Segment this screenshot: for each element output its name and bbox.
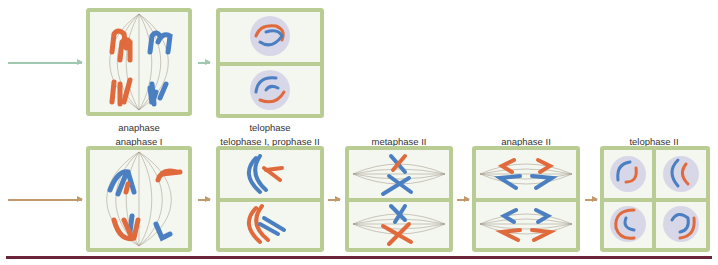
cell-telophase-bottom	[216, 62, 324, 118]
spindle-metaphase-ii-top	[349, 150, 449, 198]
cell-anaphase-i	[86, 146, 192, 252]
chromosomes-telophase-i-top	[220, 150, 320, 198]
label-telophase: telophase	[216, 122, 324, 133]
cell-telophase-i-bottom	[216, 198, 324, 252]
nucleus-telophase-top	[220, 12, 320, 62]
cell-anaphase	[86, 8, 192, 116]
nucleus-telophase-ii-br	[656, 202, 706, 248]
chromosomes-telophase-i-bottom	[220, 202, 320, 248]
nucleus-telophase-ii-bl	[604, 202, 652, 248]
arrow-1	[198, 199, 210, 201]
cell-metaphase-ii-bottom	[345, 198, 453, 252]
arrow-4	[585, 199, 597, 201]
arrow-3	[457, 199, 469, 201]
cell-telophase-ii-tr	[652, 146, 710, 202]
nucleus-telophase-ii-tl	[604, 150, 652, 198]
spindle-chromosomes-anaphase	[90, 12, 188, 112]
cell-telophase-i-top	[216, 146, 324, 202]
cell-anaphase-ii-top	[472, 146, 580, 202]
nucleus-telophase-bottom	[220, 66, 320, 114]
cell-metaphase-ii-top	[345, 146, 453, 202]
label-anaphase: anaphase	[86, 122, 192, 133]
nucleus-telophase-ii-tr	[656, 150, 706, 198]
meiosis-entry-arrow	[8, 199, 82, 201]
cell-telophase-ii-bl	[600, 198, 656, 252]
arrow-anaphase-to-telophase	[198, 62, 210, 64]
bottom-rule	[6, 256, 712, 259]
arrow-2	[328, 199, 340, 201]
cell-anaphase-ii-bottom	[472, 198, 580, 252]
mitosis-entry-arrow	[8, 62, 82, 64]
spindle-metaphase-ii-bottom	[349, 202, 449, 248]
cell-telophase-top	[216, 8, 324, 66]
cell-telophase-ii-tl	[600, 146, 656, 202]
spindle-anaphase-ii-bottom	[476, 202, 576, 248]
spindle-anaphase-ii-top	[476, 150, 576, 198]
cell-telophase-ii-br	[652, 198, 710, 252]
spindle-chromosomes-anaphase-i	[90, 150, 188, 248]
